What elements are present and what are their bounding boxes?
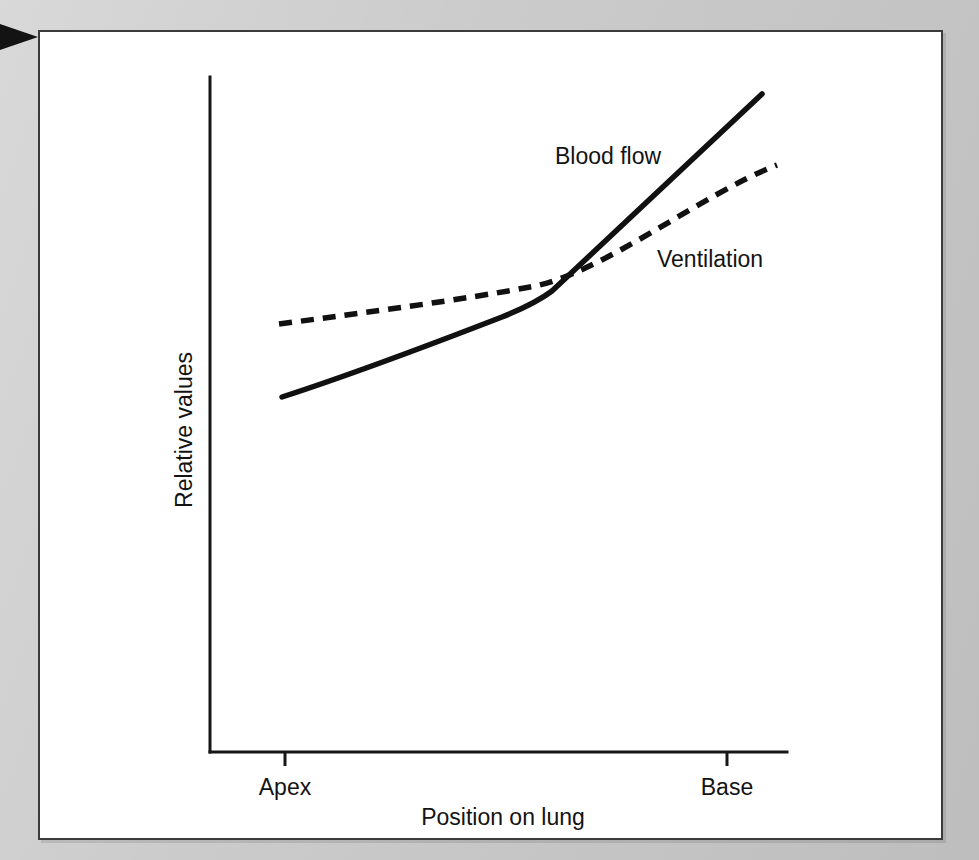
triangle-right-icon — [0, 22, 38, 52]
plot-area: Relative values Position on lung Apex Ba… — [40, 32, 941, 838]
y-axis-title: Relative values — [171, 352, 197, 508]
x-axis-title: Position on lung — [421, 804, 585, 830]
series-line-ventilation — [279, 165, 777, 324]
x-tick-label-base: Base — [701, 774, 753, 800]
figure-panel: Relative values Position on lung Apex Ba… — [38, 30, 943, 840]
line-chart: Relative values Position on lung Apex Ba… — [40, 32, 945, 842]
x-tick-label-apex: Apex — [259, 774, 312, 800]
series-label-ventilation: Ventilation — [657, 246, 763, 272]
series-label-blood-flow: Blood flow — [555, 143, 662, 169]
